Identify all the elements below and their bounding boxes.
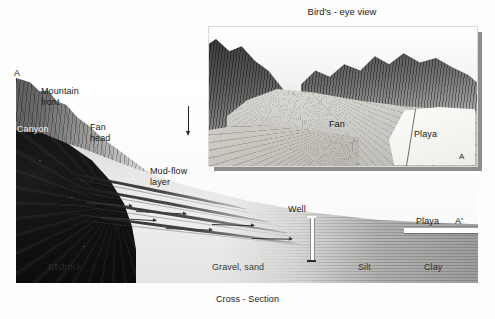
label-mountain-front: Mountain front xyxy=(41,86,79,108)
section-marker-a-prime: A' xyxy=(455,216,463,226)
birds-eye-view-panel: Fan Playa A xyxy=(208,26,478,167)
caption-cross-section: Cross - Section xyxy=(216,294,279,305)
playa-surface-band xyxy=(404,228,478,233)
figure-canvas: A Mountain front Canyon Fan head Mud-flo… xyxy=(0,0,495,319)
label-bedrock: Bedrock xyxy=(48,262,82,273)
label-fan-head: Fan head xyxy=(90,122,110,144)
label-gravel-sand: Gravel, sand xyxy=(212,262,264,273)
label-well: Well xyxy=(288,204,306,215)
label-canyon: Canyon xyxy=(17,124,49,135)
well-bottom xyxy=(307,260,316,262)
mud-flow-leader-line xyxy=(188,106,189,132)
label-silt: Silt xyxy=(358,262,371,273)
label-mud-flow-layer: Mud-flow layer xyxy=(150,166,187,188)
inset-label-playa: Playa xyxy=(414,129,437,140)
label-playa-cross-section: Playa xyxy=(416,216,439,227)
label-clay: Clay xyxy=(424,262,442,273)
inset-title: Bird's - eye view xyxy=(208,6,476,17)
section-marker-a: A xyxy=(14,68,20,78)
inset-label-fan: Fan xyxy=(329,119,345,130)
well-casing xyxy=(310,218,315,262)
inset-corner-marker-a: A xyxy=(459,151,464,162)
